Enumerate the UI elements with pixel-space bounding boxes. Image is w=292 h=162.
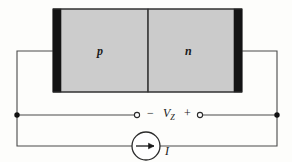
wire-left-upper xyxy=(17,51,53,115)
wire-bottom-left xyxy=(17,115,132,146)
current-label: I xyxy=(165,144,169,159)
terminal-negative[interactable] xyxy=(134,112,139,117)
negative-sign-label: − xyxy=(147,106,154,121)
n-region-body xyxy=(148,9,242,92)
wire-bottom-right xyxy=(160,115,277,146)
wire-right-upper xyxy=(242,51,277,115)
left-electrode xyxy=(53,9,61,92)
terminal-positive[interactable] xyxy=(197,112,202,117)
node-left xyxy=(14,112,19,117)
voltage-subscript: Z xyxy=(170,113,174,122)
circuit-diagram-svg xyxy=(0,0,292,162)
right-electrode xyxy=(234,9,242,92)
pn-junction-device xyxy=(53,9,242,92)
node-right xyxy=(274,112,279,117)
n-region-label: n xyxy=(185,44,192,59)
current-source-symbol xyxy=(132,132,160,160)
voltage-label: VZ xyxy=(163,106,175,122)
pn-junction-circuit-figure: p n − VZ + I xyxy=(0,0,292,162)
p-region-label: p xyxy=(97,44,103,59)
positive-sign-label: + xyxy=(184,106,191,121)
